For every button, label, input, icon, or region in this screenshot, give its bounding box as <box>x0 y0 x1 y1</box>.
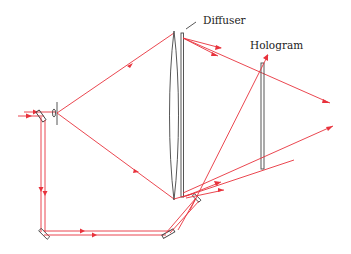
reference-beam-horizontal-arrow-2 <box>92 233 97 238</box>
reference-beam-horizontal-arrow-1 <box>80 229 85 234</box>
hologram-label: Hologram <box>250 39 303 51</box>
lens-bottom-ray <box>174 193 195 199</box>
input-beam-arrow <box>26 114 32 119</box>
object-beam-upper <box>57 33 174 113</box>
spatial-filter-lens <box>53 109 56 117</box>
reference-beam-to-hologram-arrow-1 <box>326 126 333 131</box>
mirror-bottom-left <box>39 228 50 239</box>
object-beam-lower <box>57 113 174 199</box>
reference-beam-steep-2 <box>178 198 196 230</box>
scatter-beam-3-arrow <box>322 99 330 103</box>
optical-setup-diagram: Diffuser Hologram <box>0 0 351 254</box>
diffuser-label: Diffuser <box>203 14 247 26</box>
reference-beam-to-hologram-1 <box>183 126 333 193</box>
diffuser-plate <box>181 33 184 197</box>
lens <box>170 31 179 200</box>
hologram-plate <box>261 63 264 169</box>
reference-beam-diagonal-2 <box>170 201 199 233</box>
reference-beam-short-arrow-2 <box>218 188 224 192</box>
reference-beam-diagonal-1 <box>166 198 196 233</box>
diffuser-leader <box>186 22 196 29</box>
scatter-beam-1-arrow <box>215 45 222 50</box>
reference-beam-down-arrow-2 <box>43 191 48 196</box>
object-beam-upper-arrow <box>127 63 133 68</box>
reference-beam-steep <box>190 55 268 210</box>
